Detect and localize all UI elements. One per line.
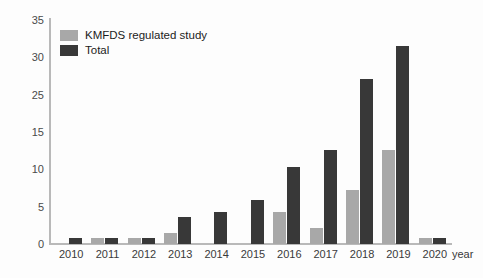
bar-group [273,18,309,244]
y-tick-label: 25 [22,90,44,101]
legend-swatch-total [60,45,78,56]
bar-group [310,18,346,244]
legend-item-kmfds: KMFDS regulated study [60,28,207,42]
bar-total [360,79,373,244]
legend-label-kmfds: KMFDS regulated study [85,29,207,42]
bar-group [346,18,382,244]
bar-group [419,18,455,244]
y-tick-label: 35 [22,15,44,26]
bar-total [214,212,227,244]
bar-group [237,18,273,244]
legend-swatch-kmfds [60,30,78,41]
bar-chart: 353025151050 201020112012201320142015201… [0,0,483,278]
bar-group [382,18,418,244]
bar-total [69,238,82,244]
y-tick-label: 15 [22,127,44,138]
bar-kmfds [419,238,432,244]
y-tick-label: 0 [22,239,44,250]
bar-total [324,150,337,244]
bar-total [396,46,409,244]
chart-legend: KMFDS regulated study Total [60,28,207,58]
bar-kmfds [346,190,359,244]
bar-kmfds [310,228,323,244]
bar-kmfds [91,238,104,244]
bar-total [433,238,446,244]
y-tick-label: 10 [22,164,44,175]
legend-label-total: Total [85,44,109,57]
bar-total [251,200,264,244]
bar-kmfds [128,238,141,244]
y-tick-label: 5 [22,202,44,213]
y-tick-label: 30 [22,52,44,63]
bar-total [287,167,300,244]
bar-kmfds [273,212,286,244]
bar-kmfds [382,150,395,244]
x-tick-label: 2020 [413,248,457,260]
legend-item-total: Total [60,43,207,57]
bar-total [142,238,155,244]
x-axis-title: year [452,248,473,260]
bar-total [105,238,118,244]
bar-total [178,217,191,244]
bar-kmfds [164,233,177,244]
